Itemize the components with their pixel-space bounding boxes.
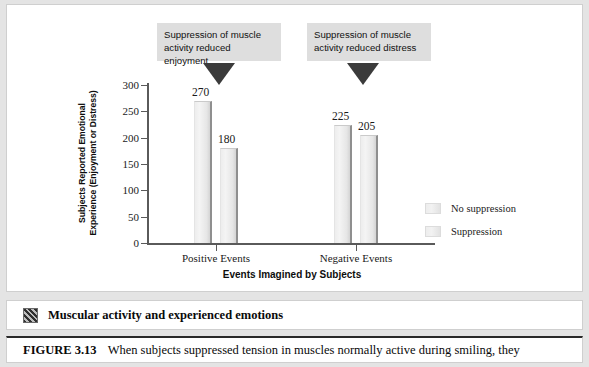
bar-value-label: 205	[358, 120, 375, 132]
bar-value-label: 270	[192, 86, 209, 98]
x-axis-category-label: Negative Events	[320, 252, 392, 264]
chart-panel: Suppression of muscle activity reduced e…	[6, 4, 583, 292]
x-axis-tick	[356, 245, 357, 251]
x-axis-category-label: Positive Events	[182, 252, 250, 264]
down-triangle-icon	[203, 63, 235, 85]
x-axis-title: Events Imagined by Subjects	[148, 269, 436, 280]
legend-swatch-no-suppression	[425, 203, 441, 214]
callout-negative-line-2: activity reduced distress	[314, 41, 424, 54]
figure-caption-row: FIGURE 3.13 When subjects suppressed ten…	[7, 338, 582, 362]
figure-subtitle-text: Muscular activity and experienced emotio…	[48, 308, 283, 323]
thumbnail-icon	[23, 308, 38, 323]
legend-label-suppression: Suppression	[451, 226, 502, 237]
figure-subtitle-row: Muscular activity and experienced emotio…	[7, 301, 582, 329]
figure-caption-text: When subjects suppressed tension in musc…	[108, 343, 520, 358]
y-axis-ticks: 050100150200250300	[7, 83, 147, 243]
legend-label-no-suppression: No suppression	[451, 203, 516, 214]
callout-negative-events: Suppression of muscle activity reduced d…	[307, 23, 431, 61]
y-axis-tick-label: 150	[123, 158, 140, 170]
legend-swatch-suppression	[425, 226, 441, 237]
bar-negative-events-no-suppression	[334, 125, 352, 244]
callout-positive-events: Suppression of muscle activity reduced e…	[157, 23, 281, 61]
x-axis-line	[147, 243, 435, 245]
bar-negative-events-suppression	[360, 135, 378, 243]
y-axis-tick-label: 0	[134, 237, 140, 249]
x-axis-tick	[216, 245, 217, 251]
figure-caption-panel: FIGURE 3.13 When subjects suppressed ten…	[6, 336, 583, 363]
y-axis-tick-label: 100	[123, 184, 140, 196]
bar-value-label: 180	[218, 133, 235, 145]
chart-legend: No suppression Suppression	[425, 203, 516, 249]
y-axis-tick-label: 200	[123, 132, 140, 144]
y-axis-tick-label: 50	[128, 211, 139, 223]
plot-area: 270180225205	[148, 85, 432, 243]
callout-positive-line-1: Suppression of muscle	[164, 28, 274, 41]
legend-item-no-suppression: No suppression	[425, 203, 516, 214]
figure-number: FIGURE 3.13	[23, 343, 97, 358]
bar-positive-events-suppression	[220, 148, 238, 243]
callout-negative-line-1: Suppression of muscle	[314, 28, 424, 41]
legend-item-suppression: Suppression	[425, 226, 516, 237]
bar-value-label: 225	[332, 110, 349, 122]
down-triangle-icon	[347, 63, 379, 85]
bar-positive-events-no-suppression	[194, 101, 212, 243]
figure-root: Suppression of muscle activity reduced e…	[0, 0, 589, 367]
y-axis-tick-label: 300	[123, 79, 140, 91]
y-axis-tick-label: 250	[123, 105, 140, 117]
figure-subtitle-panel: Muscular activity and experienced emotio…	[6, 300, 583, 330]
